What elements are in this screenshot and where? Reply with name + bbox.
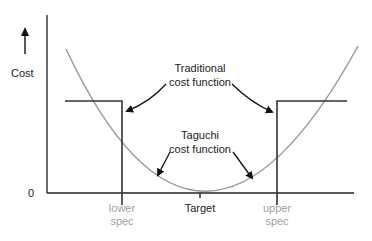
traditional-arrow-right (232, 84, 272, 112)
traditional-cost-left (65, 101, 122, 205)
taguchi-arrow-right (233, 152, 252, 178)
traditional-label-1: Traditional (175, 62, 226, 74)
lower-spec-label-2: spec (110, 215, 134, 227)
cost-function-diagram: Cost 0 Traditional cost function Taguchi… (0, 0, 372, 241)
traditional-arrow-left (127, 84, 166, 111)
upper-spec-label-2: spec (265, 215, 289, 227)
upper-spec-label-1: upper (263, 202, 291, 214)
target-label: Target (185, 202, 216, 214)
taguchi-label-1: Taguchi (181, 129, 219, 141)
lower-spec-label-1: lower (109, 202, 136, 214)
up-arrow-icon (21, 27, 29, 54)
y-axis-label: Cost (11, 67, 34, 79)
traditional-label-2: cost function (169, 76, 231, 88)
taguchi-label-2: cost function (169, 143, 231, 155)
y-origin-label: 0 (28, 187, 34, 199)
traditional-cost-right (277, 101, 347, 205)
taguchi-arrow-left (158, 152, 170, 175)
